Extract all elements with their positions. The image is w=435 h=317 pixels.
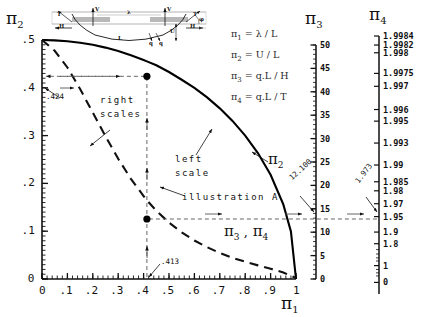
pi4-tick-label: 1.98: [383, 187, 403, 196]
x-tick-label: .1: [59, 285, 72, 296]
chart-figure: π2 π3 π4 π1 π1 = λ / Lπ2 = U / Lπ3 = q.L…: [0, 0, 435, 317]
x-tick-label: 0: [39, 285, 46, 296]
pi3-tick-label: 45: [320, 64, 330, 73]
inset-label-L: L: [118, 36, 122, 42]
pi4-tick-label: 1.99: [383, 161, 403, 170]
x-axis-ticks: [42, 273, 296, 279]
label-right-scales-line1: right: [100, 96, 135, 105]
inset-label-T-right: T: [193, 12, 197, 18]
y-tick-label: .5: [22, 34, 35, 45]
pi4-tick-label: 1: [383, 262, 388, 271]
curve-label-pi34: π3 , π4: [224, 224, 268, 242]
pi3-tick-label: 5: [320, 252, 325, 261]
marker-pi34-point: [143, 215, 150, 222]
formula-1: π1 = λ / L: [231, 29, 277, 42]
pi3-axis-header: π3: [305, 10, 323, 30]
formula-rhs: = λ / L: [242, 28, 278, 39]
pi3-tick-label: 50: [320, 41, 330, 50]
pi4-tick-label: 1.997: [383, 82, 409, 91]
x-tick-label: .6: [186, 285, 199, 296]
formula-4: π4 = q.L / T: [231, 92, 287, 105]
y-tick-label: .3: [22, 130, 35, 141]
inset-label-T-left: T: [57, 12, 61, 18]
pi4-tick-label: 1.9975: [383, 69, 414, 78]
y-axis-ticks: [42, 40, 48, 279]
pi4-tick-label: 0: [383, 278, 388, 287]
chart-canvas: [0, 0, 435, 317]
inset-label-H-right: H: [190, 24, 195, 30]
label-left-scale-line1: left: [175, 155, 203, 164]
inset-label-U: U: [170, 29, 175, 35]
x-tick-label: .5: [161, 285, 174, 296]
inset-label-V-left: V: [95, 7, 99, 13]
formula-2: π2 = U / L: [231, 50, 279, 63]
pi3-tick-label: 30: [320, 135, 330, 144]
pi4-tick-label: 1.985: [383, 178, 409, 187]
pi2-axis-header: π2: [6, 10, 24, 30]
formula-rhs: = q.L / H: [242, 70, 289, 81]
y-tick-label: .1: [22, 225, 35, 236]
pi4-tick-label: 1.998: [383, 49, 409, 58]
x-tick-label: .8: [237, 285, 250, 296]
pi4-tick-label: 1.9: [383, 228, 398, 237]
pi3-tick-label: 40: [320, 88, 330, 97]
inset-label-phi: φ: [199, 17, 204, 23]
inset-label-H-left: H: [59, 24, 64, 30]
label-left-scale-line2: scale: [175, 169, 210, 178]
x-tick-label: .4: [136, 285, 149, 296]
formula-rhs: = q.L / T: [242, 91, 287, 102]
pi4-tick-label: 1.97: [383, 200, 403, 209]
annotation-pi1-value: .413: [161, 258, 179, 266]
x-tick-label: 1: [293, 285, 300, 296]
y-tick-label: 0: [28, 273, 35, 284]
pi4-tick-label: 1.993: [383, 139, 409, 148]
marker-pi2-point: [143, 73, 150, 80]
pi3-tick-label: 15: [320, 205, 330, 214]
pi3-tick-label: 25: [320, 158, 330, 167]
formula-rhs: = U / L: [242, 49, 280, 60]
pi4-axis-header: π4: [369, 6, 387, 26]
x-tick-label: .7: [212, 285, 225, 296]
formula-3: π3 = q.L / H: [231, 71, 289, 84]
inset-label-q-right: q: [159, 41, 163, 47]
label-illustration-a: illustration A: [182, 193, 279, 202]
y-tick-label: .4: [22, 82, 35, 93]
inset-label-lambda: λ: [127, 10, 131, 16]
x-tick-label: .3: [110, 285, 123, 296]
pi4-tick-label: 1.95: [383, 213, 403, 222]
pi4-tick-label: 1.995: [383, 117, 409, 126]
pi3-tick-label: 10: [320, 228, 330, 237]
label-right-scales-line2: scales: [100, 110, 142, 119]
x-tick-label: .9: [263, 285, 276, 296]
pi3-tick-label: 35: [320, 111, 330, 120]
inset-label-V-right: V: [167, 7, 171, 13]
pi1-axis-header: π1: [281, 295, 299, 315]
pi3-tick-label: 0: [320, 275, 325, 284]
guide-lines: [46, 76, 378, 277]
inset-label-q-left: q: [149, 41, 153, 47]
y-tick-label: .2: [22, 177, 35, 188]
annotation-pi2-value: .424: [46, 93, 64, 101]
x-tick-label: .2: [85, 285, 98, 296]
pi3-tick-label: 20: [320, 181, 330, 190]
curve-label-pi2: π2: [268, 152, 284, 170]
pi4-tick-label: 1.996: [383, 106, 409, 115]
pi4-tick-label: 1.8: [383, 240, 398, 249]
